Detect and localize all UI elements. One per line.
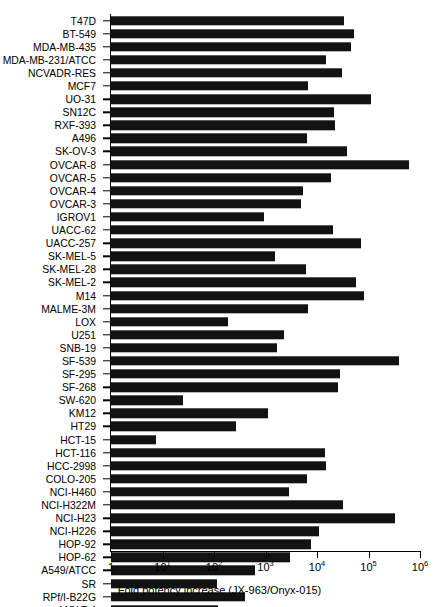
- bar-row: HCT-15: [0, 433, 439, 446]
- cell-line-label: HCC-2998: [47, 460, 96, 471]
- bar: [111, 68, 342, 77]
- cell-line-label: MDA-MB-435: [33, 41, 96, 52]
- bar-row: MOLT-4: [0, 603, 439, 607]
- y-axis-tick: [103, 164, 111, 165]
- x-axis-tick: [163, 551, 164, 558]
- cell-line-label: HCT-116: [55, 447, 96, 458]
- bar-row: SK-MEL-2: [0, 276, 439, 289]
- bar: [111, 527, 319, 536]
- x-axis-tick-label: 106: [412, 561, 428, 573]
- bar-row: HCT-116: [0, 446, 439, 459]
- y-axis-tick: [103, 386, 111, 387]
- cell-line-label: SK-OV-3: [55, 146, 96, 157]
- y-axis-tick: [103, 373, 111, 374]
- cell-line-label: OVCAR-4: [50, 185, 96, 196]
- bar-row: UACC-62: [0, 224, 439, 237]
- bar-row: SK-MEL-5: [0, 250, 439, 263]
- bar-row: KM12: [0, 407, 439, 420]
- bar-row: NCVADR-RES: [0, 66, 439, 79]
- cell-line-label: NCI-H226: [50, 526, 96, 537]
- y-axis-tick: [103, 321, 111, 322]
- bar: [111, 29, 354, 38]
- y-axis-tick: [103, 413, 111, 414]
- cell-line-label: MDA-MB-231/ATCC: [3, 54, 96, 65]
- y-axis-tick: [103, 439, 111, 440]
- y-axis-tick: [103, 544, 111, 545]
- y-axis-tick: [103, 46, 111, 47]
- x-axis-tick-label: 104: [309, 561, 325, 573]
- cell-line-label: KM12: [69, 408, 96, 419]
- bar-row: SF-295: [0, 368, 439, 381]
- cell-line-label: UACC-257: [46, 238, 96, 249]
- bar-row: OVCAR-5: [0, 171, 439, 184]
- cell-line-label: A496: [72, 133, 96, 144]
- cell-line-label: SF-268: [62, 382, 96, 393]
- y-axis-tick: [103, 596, 111, 597]
- bar: [111, 317, 228, 326]
- y-axis-tick: [103, 125, 111, 126]
- bar-row: MDA-MB-435: [0, 40, 439, 53]
- bar: [111, 173, 331, 182]
- bar: [111, 356, 399, 365]
- bar: [111, 513, 395, 522]
- y-axis-tick: [103, 242, 111, 243]
- cell-line-label: HOP-92: [58, 539, 96, 550]
- bar: [111, 474, 307, 483]
- x-axis-tick-label: 1: [108, 561, 114, 573]
- cell-line-label: UACC-62: [52, 225, 96, 236]
- y-axis-tick: [103, 190, 111, 191]
- bar-row: OVCAR-3: [0, 197, 439, 210]
- x-axis-tick: [369, 551, 370, 558]
- y-axis-tick: [103, 229, 111, 230]
- bar-row: NCI-H226: [0, 525, 439, 538]
- bar-row: IGROV1: [0, 210, 439, 223]
- y-axis-tick: [103, 557, 111, 558]
- cell-line-label: RXF-393: [54, 120, 96, 131]
- bar: [111, 94, 371, 103]
- bar-row: OVCAR-8: [0, 158, 439, 171]
- bar-row: UACC-257: [0, 237, 439, 250]
- bar: [111, 540, 311, 549]
- y-axis-tick: [103, 295, 111, 296]
- bar: [111, 160, 409, 169]
- y-axis-tick: [103, 59, 111, 60]
- cell-line-label: SK-MEL-28: [42, 264, 96, 275]
- cell-line-label: NCI-H322M: [41, 500, 96, 511]
- bar-row: SF-268: [0, 381, 439, 394]
- cell-line-label: SN12C: [63, 107, 97, 118]
- bar-chart-plot: T47DBT-549MDA-MB-435MDA-MB-231/ATCCNCVAD…: [0, 0, 439, 607]
- y-axis-tick: [103, 203, 111, 204]
- bar: [111, 199, 301, 208]
- bar: [111, 238, 361, 247]
- bar: [111, 343, 277, 352]
- y-axis-tick: [103, 98, 111, 99]
- cell-line-label: HCT-15: [60, 434, 96, 445]
- cell-line-label: M14: [76, 290, 96, 301]
- bar-row: NCI-H322M: [0, 498, 439, 511]
- y-axis-tick: [103, 72, 111, 73]
- cell-line-label: UO-31: [65, 94, 96, 105]
- bar-row: SNB-19: [0, 341, 439, 354]
- cell-line-label: T47D: [71, 15, 96, 26]
- bar: [111, 108, 334, 117]
- bar: [111, 304, 308, 313]
- x-axis-tick-label: 103: [257, 561, 273, 573]
- cell-line-label: NCI-H23: [56, 513, 96, 524]
- y-axis-tick: [103, 491, 111, 492]
- y-axis-tick: [103, 334, 111, 335]
- bar-row: MCF7: [0, 79, 439, 92]
- cell-line-label: SK-MEL-5: [48, 251, 96, 262]
- bar: [111, 186, 303, 195]
- y-axis-tick: [103, 504, 111, 505]
- x-axis-tick: [420, 551, 421, 558]
- bar-row: LOX: [0, 315, 439, 328]
- y-axis-tick: [103, 452, 111, 453]
- x-axis-title: Fold potency increase (JX-963/Onyx-015): [0, 584, 439, 596]
- bar: [111, 330, 284, 339]
- y-axis-tick: [103, 426, 111, 427]
- y-axis-tick: [103, 216, 111, 217]
- bar: [111, 278, 356, 287]
- bar: [111, 252, 275, 261]
- y-axis-tick: [103, 347, 111, 348]
- bar-row: OVCAR-4: [0, 184, 439, 197]
